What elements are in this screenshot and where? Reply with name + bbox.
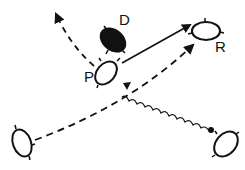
interaction-diagram: D P R — [0, 0, 245, 170]
dashed-edge-p-to-top-left — [56, 14, 94, 66]
node-label-d: D — [119, 11, 130, 28]
solid-edge-p-to-r — [122, 25, 190, 63]
wavy-edge-bottom-right-to-p — [122, 96, 209, 131]
dashed-edge-bottom-left-to-r — [35, 45, 193, 140]
node-d: D — [96, 11, 130, 57]
node-label-p: P — [84, 68, 94, 85]
node-bottom-right — [209, 127, 242, 161]
wavy-edge-arrowhead — [123, 82, 131, 90]
source-dot — [208, 127, 214, 133]
node-label-r: R — [215, 38, 226, 55]
node-bottom-left — [9, 125, 35, 160]
node-r: R — [188, 18, 226, 55]
